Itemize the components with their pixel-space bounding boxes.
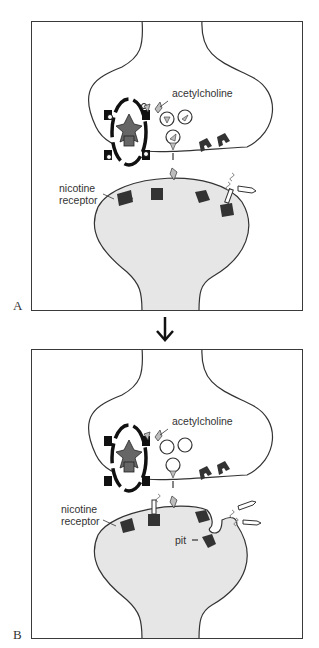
pit-label: pit [175,534,186,546]
down-arrow-icon [155,315,175,343]
panel-a: acetylcholine nicotine receptor [31,21,303,311]
nicotine-receptor-label-line2: receptor [59,194,98,206]
postsynaptic-terminal [94,178,248,311]
nicotine-receptor-label-line1: nicotine [59,182,95,194]
panel-letter-b: B [13,627,22,643]
synapse-diagram-a [32,22,303,311]
postsynaptic-terminal-with-pit [94,506,247,639]
nicotine-molecule-icons [230,501,261,526]
nicotine-receptor-label-line1: nicotine [61,503,97,515]
panel-letter-a: A [13,298,22,314]
acetylcholine-label: acetylcholine [172,415,233,427]
synapse-diagram-b [32,350,303,639]
acetylcholine-label: acetylcholine [172,87,233,99]
panel-b: acetylcholine nicotine receptor pit [31,349,303,639]
nicotine-receptor-label-line2: receptor [61,515,100,527]
